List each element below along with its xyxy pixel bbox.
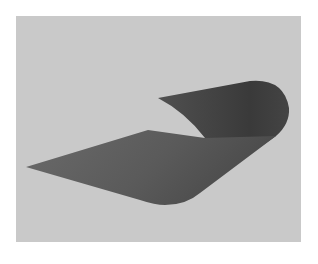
curled-sheet-render [0, 0, 318, 264]
image-frame [0, 0, 318, 264]
sheet-flat [26, 130, 276, 205]
